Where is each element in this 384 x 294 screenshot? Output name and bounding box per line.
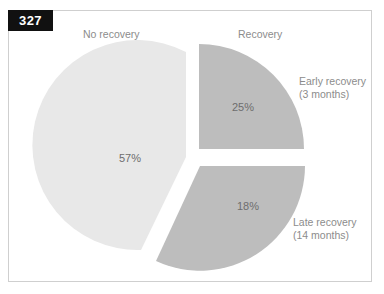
slice-value-early-recovery: 25%: [232, 101, 254, 113]
slice-value-late-recovery: 18%: [237, 200, 259, 212]
label-early-recovery: Early recovery (3 months): [299, 75, 366, 101]
pie-slice-early-recovery[interactable]: [199, 44, 304, 149]
slice-value-no-recovery: 57%: [119, 152, 141, 164]
label-late-recovery-line1: Late recovery: [293, 216, 357, 228]
pie-chart-figure: 327 57% 25% 18% No recovery Recovery Ear…: [0, 0, 384, 294]
label-late-recovery-line2: (14 months): [293, 229, 357, 242]
page-number-badge: 327: [8, 10, 53, 31]
label-no-recovery: No recovery: [83, 28, 140, 41]
label-early-recovery-line1: Early recovery: [299, 75, 366, 87]
label-late-recovery: Late recovery (14 months): [293, 216, 357, 242]
label-early-recovery-line2: (3 months): [299, 88, 366, 101]
pie-slice-no-recovery[interactable]: [32, 40, 186, 250]
label-recovery: Recovery: [238, 28, 282, 41]
pie-slice-late-recovery[interactable]: [156, 166, 305, 271]
pie-chart-svg: 57% 25% 18%: [0, 0, 384, 294]
